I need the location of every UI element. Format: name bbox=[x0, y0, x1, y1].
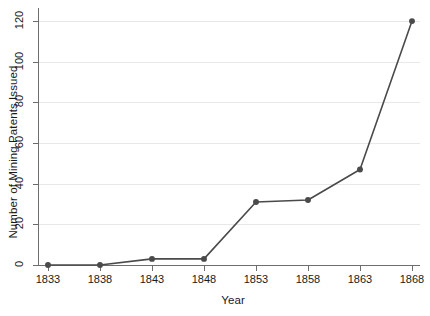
x-tick-label: 1848 bbox=[179, 273, 229, 285]
x-axis-title: Year bbox=[46, 294, 420, 306]
y-tick-label: 100 bbox=[0, 55, 32, 69]
y-tick-label: 0 bbox=[0, 258, 32, 272]
x-tick-label: 1853 bbox=[231, 273, 281, 285]
gridline bbox=[38, 62, 420, 63]
x-tick-label: 1838 bbox=[75, 273, 125, 285]
y-tick-label-text: 80 bbox=[13, 88, 25, 114]
y-tick-label: 80 bbox=[0, 95, 32, 109]
y-axis-line bbox=[38, 8, 39, 266]
data-point bbox=[149, 256, 155, 262]
x-tick-label: 1863 bbox=[335, 273, 385, 285]
data-point bbox=[201, 256, 207, 262]
x-tick-mark bbox=[412, 266, 413, 271]
x-tick-label: 1868 bbox=[387, 273, 430, 285]
y-tick-label: 120 bbox=[0, 14, 32, 28]
gridline bbox=[38, 184, 420, 185]
y-tick-label-text: 120 bbox=[13, 7, 25, 33]
x-tick-mark bbox=[204, 266, 205, 271]
data-point bbox=[253, 199, 259, 205]
y-tick-label-text: 60 bbox=[13, 129, 25, 155]
x-tick-mark bbox=[308, 266, 309, 271]
y-tick-label: 20 bbox=[0, 217, 32, 231]
gridline bbox=[38, 224, 420, 225]
x-tick-label: 1833 bbox=[23, 273, 73, 285]
gridline bbox=[38, 21, 420, 22]
y-tick-label-text: 20 bbox=[13, 210, 25, 236]
data-point bbox=[305, 197, 311, 203]
x-tick-label: 1858 bbox=[283, 273, 333, 285]
data-series-layer bbox=[0, 0, 430, 316]
x-axis-line bbox=[38, 265, 420, 266]
gridline bbox=[38, 143, 420, 144]
x-tick-mark bbox=[100, 266, 101, 271]
y-tick-label-text: 40 bbox=[13, 170, 25, 196]
x-tick-mark bbox=[256, 266, 257, 271]
mining-patents-line-chart: Number of Mining Patents Issued Year 020… bbox=[0, 0, 430, 316]
x-tick-label: 1843 bbox=[127, 273, 177, 285]
data-point bbox=[357, 167, 363, 173]
y-tick-label: 40 bbox=[0, 177, 32, 191]
x-tick-mark bbox=[360, 266, 361, 271]
x-tick-mark bbox=[152, 266, 153, 271]
y-tick-label: 60 bbox=[0, 136, 32, 150]
x-tick-mark bbox=[48, 266, 49, 271]
y-tick-label-text: 100 bbox=[13, 48, 25, 74]
gridline bbox=[38, 102, 420, 103]
